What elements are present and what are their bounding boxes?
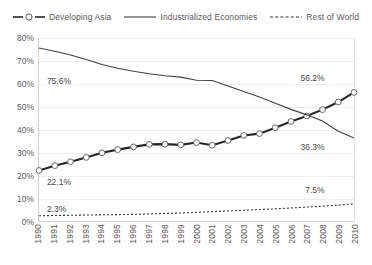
y-axis-tick-label: 70% [0,56,34,66]
y-axis-tick-label: 50% [0,102,34,112]
data-label: 56.2% [300,73,324,83]
plot-area: 75.6%22.1%2.3%56.2%36.3%7.5% [38,38,355,222]
x-axis-tick-label: 2001 [207,224,217,244]
x-axis-tick-label: 1990 [33,224,43,244]
x-axis-tick-label: 2009 [334,224,344,244]
y-axis-tick-label: 10% [0,194,34,204]
x-axis-tick-label: 2006 [287,224,297,244]
y-axis-tick-label: 0% [0,217,34,227]
line-chart: Developing Asia Industrialized Economies… [0,0,372,265]
data-point-marker [68,159,74,165]
x-axis-tick-label: 1995 [112,224,122,244]
y-axis-tick-label: 40% [0,125,34,135]
x-axis-tick-label: 1994 [96,224,106,244]
data-point-marker [162,141,168,147]
solid-line-key-icon [124,8,156,26]
data-label: 7.5% [305,185,324,195]
x-axis-tick-label: 1996 [128,224,138,244]
data-point-marker [178,142,184,148]
legend-item-industrialized-economies: Industrialized Economies [124,8,257,26]
data-point-marker [272,125,278,131]
data-point-marker [99,150,105,156]
series-line [39,48,354,138]
data-point-marker [115,147,121,153]
data-label: 22.1% [47,177,71,187]
data-point-marker [241,133,247,139]
legend-label-developing-asia: Developing Asia [49,12,111,22]
data-point-marker [83,155,89,161]
legend-label-industrialized-economies: Industrialized Economies [160,12,257,22]
data-point-marker [52,163,58,169]
x-axis-tick-label: 1999 [176,224,186,244]
data-point-marker [351,90,357,96]
data-point-marker [194,140,200,146]
x-axis-tick-label: 2004 [255,224,265,244]
x-axis-tick-label: 2003 [239,224,249,244]
legend-item-rest-of-world: Rest of World [270,8,359,26]
data-label: 36.3% [300,142,324,152]
y-axis-tick-label: 30% [0,148,34,158]
chart-legend: Developing Asia Industrialized Economies… [0,8,372,26]
data-point-marker [131,144,137,150]
legend-item-developing-asia: Developing Asia [13,8,111,26]
data-point-marker [36,168,42,174]
series-line [39,204,354,216]
x-axis: 1990199119921993199419951996199719981999… [38,224,355,265]
y-axis: 0%10%20%30%40%50%60%70%80% [0,38,34,222]
data-point-marker [335,99,341,105]
x-axis-tick-label: 2007 [302,224,312,244]
x-axis-tick-label: 2010 [350,224,360,244]
x-axis-tick-label: 1997 [144,224,154,244]
x-axis-tick-label: 2002 [223,224,233,244]
data-label: 2.3% [47,204,66,214]
x-axis-tick-label: 1998 [160,224,170,244]
dashed-circle-marker-key-icon [13,8,45,26]
x-axis-tick-label: 2005 [271,224,281,244]
y-axis-tick-label: 20% [0,171,34,181]
data-point-marker [257,131,263,137]
data-point-marker [209,142,215,148]
y-axis-tick-label: 80% [0,33,34,43]
y-axis-tick-label: 60% [0,79,34,89]
data-point-marker [288,119,294,125]
data-label: 75.6% [47,76,71,86]
data-point-marker [146,141,152,147]
x-axis-tick-label: 2008 [318,224,328,244]
x-axis-tick-label: 1993 [81,224,91,244]
x-axis-tick-label: 1992 [65,224,75,244]
data-point-marker [225,138,231,144]
x-axis-tick-label: 2000 [192,224,202,244]
legend-label-rest-of-world: Rest of World [306,12,359,22]
x-axis-tick-label: 1991 [49,224,59,244]
dotted-line-key-icon [270,8,302,26]
data-point-marker [320,107,326,113]
